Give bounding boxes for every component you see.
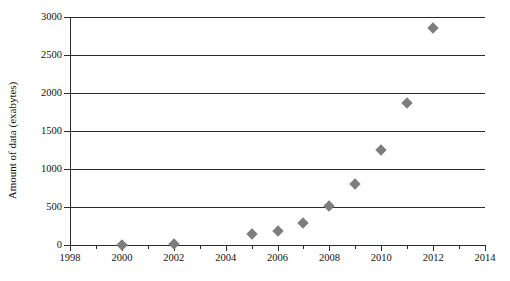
x-axis-minor-tick [355,245,356,249]
x-axis-minor-tick [148,245,149,249]
y-axis-tick-label: 0 [0,240,62,251]
x-axis-minor-tick [200,245,201,249]
data-point [376,144,387,155]
data-point [298,217,309,228]
x-axis-tick-label: 2004 [201,253,251,264]
data-point [350,179,361,190]
x-axis-tick-label: 2012 [408,253,458,264]
x-axis-tick [278,245,279,251]
data-point [427,22,438,33]
x-axis-tick-label: 2002 [149,253,199,264]
x-axis-tick-label: 2006 [253,253,303,264]
x-axis-minor-tick [407,245,408,249]
y-axis-tick-label: 1500 [0,126,62,137]
data-point [402,97,413,108]
x-axis-tick-label: 2010 [356,253,406,264]
scatter-chart: Amount of data (exabytes) 05001000150020… [0,0,510,281]
y-axis-tick-label: 2000 [0,88,62,99]
x-axis-tick-label: 1998 [45,253,95,264]
y-axis-tick-label: 500 [0,202,62,213]
x-axis-tick [485,245,486,251]
data-markers [70,17,485,245]
x-axis-tick [381,245,382,251]
y-axis-tick-label: 2500 [0,50,62,61]
x-axis-minor-tick [459,245,460,249]
y-axis-tick-label: 1000 [0,164,62,175]
x-axis-tick [329,245,330,251]
data-point [116,239,127,250]
data-point [168,239,179,250]
x-axis-minor-tick [252,245,253,249]
x-axis-tick [226,245,227,251]
x-axis-tick-label: 2000 [97,253,147,264]
data-point [272,226,283,237]
x-axis-tick [70,245,71,251]
data-point [246,228,257,239]
x-axis-tick [433,245,434,251]
x-axis-tick-label: 2014 [460,253,510,264]
data-point [324,201,335,212]
x-axis-minor-tick [303,245,304,249]
x-axis-tick-label: 2008 [304,253,354,264]
x-axis-minor-tick [96,245,97,249]
y-axis-tick-label: 3000 [0,12,62,23]
